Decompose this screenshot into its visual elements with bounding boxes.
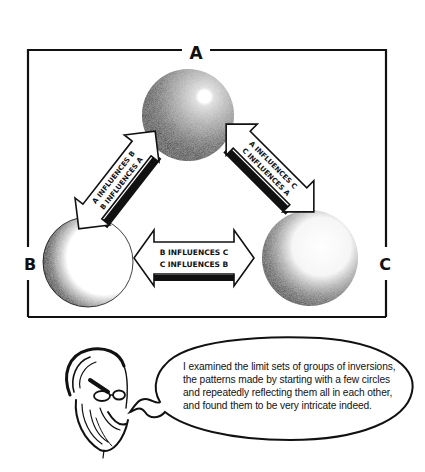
- node-label-a: A: [189, 43, 203, 63]
- bearded-man-with-glasses-portrait-icon: [67, 349, 128, 458]
- node-label-b: B: [24, 255, 36, 274]
- arrow-b-c-label-1: B INFLUENCES C: [160, 248, 229, 257]
- arrow-b-c-label-2: C INFLUENCES B: [160, 260, 229, 269]
- caption-line-3: and repeatedly reflecting them all in ea…: [183, 386, 415, 399]
- arrow-b-c: B INFLUENCES C C INFLUENCES B: [134, 230, 254, 286]
- caption-line-1: I examined the limit sets of groups of i…: [183, 360, 415, 373]
- sphere-b: [43, 217, 133, 307]
- caption-line-2: the patterns made by starting with a few…: [183, 373, 415, 386]
- node-label-c: C: [379, 255, 391, 274]
- caption-line-4: and found them to be very intricate inde…: [183, 399, 415, 412]
- arrow-a-c: A INFLUENCES C C INFLUENCES A: [211, 109, 330, 228]
- speech-bubble-text: I examined the limit sets of groups of i…: [183, 360, 415, 412]
- sphere-c: [262, 210, 358, 306]
